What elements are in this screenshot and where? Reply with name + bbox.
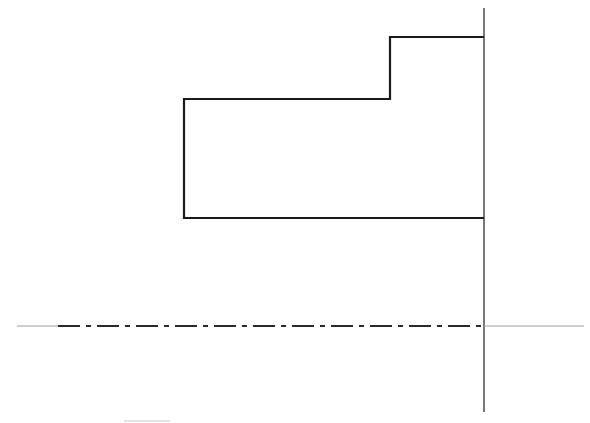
technical-drawing-canvas [0,0,590,423]
background [0,0,590,423]
